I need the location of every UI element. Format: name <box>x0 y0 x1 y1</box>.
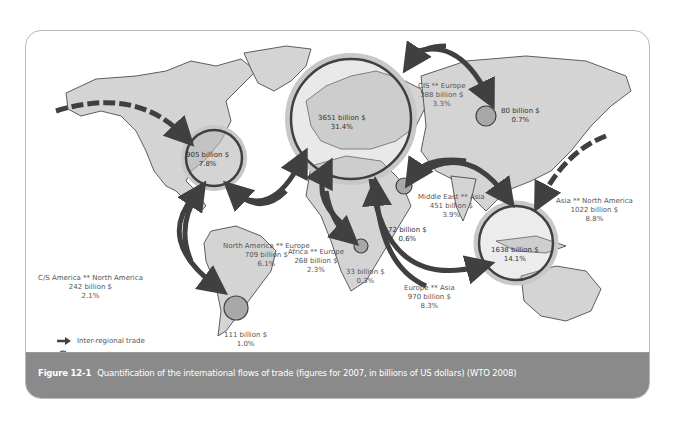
world-map: 905 billion $7.8% 3651 billion $31.4% 80… <box>26 31 649 353</box>
label-csa-na-inter: C/S America ** North America242 billion … <box>38 274 143 301</box>
label-europe-asia-inter: Europe ** Asia970 billion $8.3% <box>404 284 455 311</box>
arrow-icon <box>56 336 72 346</box>
label-africa-intra: 33 billion $0.3% <box>346 268 385 286</box>
label-me-asia-inter: Middle East ** Asia451 billion $3.9% <box>418 193 485 220</box>
legend-inter-label: Inter-regional trade <box>77 337 145 345</box>
label-south-america-intra: 111 billion $1.0% <box>224 331 267 349</box>
world-map-graphic <box>26 31 649 353</box>
caption-text: Quantification of the international flow… <box>97 367 516 378</box>
label-europe-intra: 3651 billion $31.4% <box>318 114 366 132</box>
label-middle-east-intra: 72 billion $0.6% <box>388 226 427 244</box>
label-africa-europe-inter: Africa ** Europe268 billion $2.3% <box>288 248 344 275</box>
label-asia-na-inter: Asia ** North America1022 billion $8.8% <box>556 197 633 224</box>
figure-frame: 905 billion $7.8% 3651 billion $31.4% 80… <box>25 30 650 399</box>
label-asia-intra: 1638 billion $14.1% <box>491 246 539 264</box>
figure-number: Figure 12-1 <box>38 367 91 378</box>
caption-bar: Figure 12-1Quantification of the interna… <box>26 352 649 398</box>
asia-land <box>421 56 631 211</box>
legend-inter-regional: Inter-regional trade <box>56 334 145 348</box>
label-cis-intra: 80 billion $0.7% <box>501 107 540 125</box>
label-cis-europe-inter: CIS ** Europe388 billion $3.3% <box>418 82 465 109</box>
figure-caption: Figure 12-1Quantification of the interna… <box>38 367 516 378</box>
label-north-america-intra: 905 billion $7.8% <box>186 151 229 169</box>
